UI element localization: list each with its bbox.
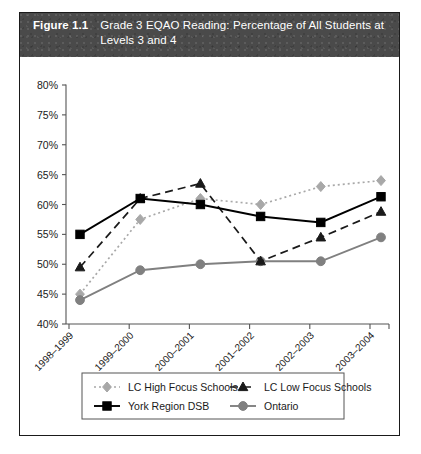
legend-item: York Region DSB [94,400,209,412]
legend-swatch-marker [239,402,248,411]
data-point [256,212,264,220]
data-point [196,200,204,208]
data-point [377,176,386,186]
y-axis-tick-label: 80% [37,79,58,91]
data-point [136,266,145,275]
y-axis-tick-label: 40% [37,318,58,330]
figure-title: Grade 3 EQAO Reading: Percentage of All … [100,18,389,48]
legend-box [82,373,344,419]
y-axis-tick-label: 60% [37,199,58,211]
series-lc-low-focus-schools [75,179,386,271]
data-point [376,207,386,216]
x-axis-tick-label: 2002–2003 [273,329,316,372]
legend-item-label: York Region DSB [128,400,209,412]
data-point [316,257,325,266]
legend-item-label: Ontario [264,400,299,412]
chart-area: 40%45%50%55%60%65%70%75%80%1998–19991999… [20,57,399,435]
x-axis-tick-label: 2000–2001 [153,329,196,372]
data-point [196,179,206,188]
data-point [196,260,205,269]
data-point [317,218,325,226]
series-line [80,237,381,300]
y-axis-tick-label: 65% [37,169,58,181]
series-lc-high-focus-schools [76,176,386,300]
data-point [256,200,265,210]
figure-container: Figure 1.1 Grade 3 EQAO Reading: Percent… [19,12,400,436]
x-axis-tick-label: 2003–2004 [333,329,376,372]
legend-swatch-marker [103,402,111,410]
y-axis-tick-label: 75% [37,109,58,121]
data-point [377,233,386,242]
line-chart: 40%45%50%55%60%65%70%75%80%1998–19991999… [20,57,399,435]
series-ontario [76,233,386,305]
data-point [136,194,144,202]
data-point [76,230,84,238]
x-axis-tick-label: 1998–1999 [32,329,75,372]
data-point [316,182,325,192]
x-axis-tick-label: 2001–2002 [213,329,256,372]
y-axis-tick-label: 50% [37,258,58,270]
figure-number: Figure 1.1 [33,18,88,33]
series-york-region-dsb [76,193,385,239]
x-axis-tick-label: 1999–2000 [92,329,135,372]
data-point [76,296,85,305]
legend-item-label: LC Low Focus Schools [264,381,371,393]
y-axis-tick-label: 55% [37,228,58,240]
y-axis-tick-label: 70% [37,139,58,151]
y-axis-tick-label: 45% [37,288,58,300]
legend-item-label: LC High Focus Schools [128,381,238,393]
data-point [377,193,385,201]
figure-title-bar: Figure 1.1 Grade 3 EQAO Reading: Percent… [20,13,399,57]
